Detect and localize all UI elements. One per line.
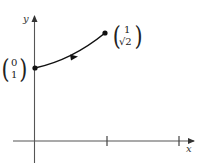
direction-arrow-icon <box>70 55 78 61</box>
end-vector-bottom: √2 <box>119 36 132 47</box>
x-axis-label: x <box>186 143 192 154</box>
start-vector-top: 0 <box>11 57 17 68</box>
diagram-canvas: y x ( 0 1 ) ( 1 √2 ) <box>0 0 202 167</box>
start-left-paren: ( <box>2 54 10 85</box>
start-point <box>32 65 37 70</box>
end-point-label: ( 1 √2 ) <box>113 21 143 52</box>
end-point <box>102 30 107 35</box>
start-point-label: ( 0 1 ) <box>2 54 28 85</box>
start-vector-bottom: 1 <box>11 69 17 80</box>
end-vector-top: 1 <box>124 24 130 35</box>
end-right-paren: ) <box>134 21 142 52</box>
start-right-paren: ) <box>19 54 27 85</box>
curve <box>35 33 105 68</box>
y-axis-label: y <box>22 13 29 24</box>
